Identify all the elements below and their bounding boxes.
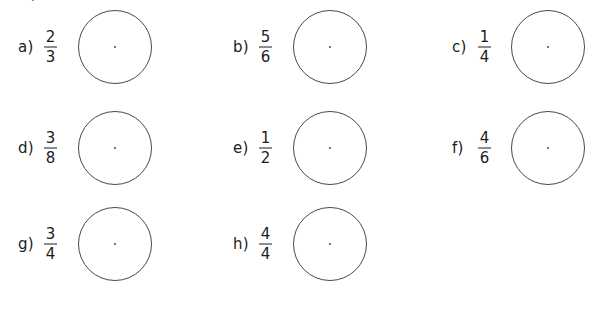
fraction-denominator: 4 <box>479 50 491 65</box>
problem-item: c)14 <box>452 2 587 92</box>
circle-center-dot <box>547 147 549 149</box>
fraction: 23 <box>44 30 57 65</box>
problem-item: d)38 <box>18 103 154 193</box>
problem-item: b)56 <box>233 2 369 92</box>
fraction-denominator: 4 <box>260 247 272 262</box>
circle-center-dot <box>329 46 331 48</box>
fraction-circle[interactable] <box>510 110 586 186</box>
fraction-denominator: 4 <box>45 247 57 262</box>
problem-label: h) <box>233 237 249 252</box>
problem-item: a)23 <box>18 2 154 92</box>
fraction: 46 <box>478 131 491 166</box>
circle-center-dot <box>329 243 331 245</box>
fraction-numerator: 1 <box>479 30 491 45</box>
problem-label: b) <box>233 40 249 55</box>
fraction-numerator: 3 <box>45 131 57 146</box>
fraction-denominator: 3 <box>45 50 57 65</box>
problem-label: f) <box>452 141 464 156</box>
fraction-circle[interactable] <box>77 9 153 85</box>
fraction-denominator: 8 <box>45 151 57 166</box>
fraction-circle[interactable] <box>77 110 153 186</box>
fraction-numerator: 3 <box>45 227 57 242</box>
problem-label: d) <box>18 141 34 156</box>
circle-center-dot <box>547 46 549 48</box>
circle-center-dot <box>114 46 116 48</box>
worksheet-canvas: y a)23b)56c)14d)38e)12f)46g)34h)44 <box>0 0 606 320</box>
fraction: 12 <box>259 131 272 166</box>
circle-center-dot <box>114 147 116 149</box>
problem-item: h)44 <box>233 199 369 289</box>
fraction-numerator: 5 <box>260 30 272 45</box>
fraction: 56 <box>259 30 272 65</box>
fraction-numerator: 2 <box>45 30 57 45</box>
problem-label: e) <box>233 141 248 156</box>
fraction-circle[interactable] <box>510 9 586 85</box>
fraction: 44 <box>259 227 272 262</box>
fraction-numerator: 4 <box>479 131 491 146</box>
problem-item: f)46 <box>452 103 587 193</box>
fraction-numerator: 4 <box>260 227 272 242</box>
problem-label: g) <box>18 237 34 252</box>
fraction: 38 <box>44 131 57 166</box>
fraction-denominator: 6 <box>260 50 272 65</box>
problem-label: a) <box>18 40 33 55</box>
fraction-numerator: 1 <box>260 131 272 146</box>
fraction-circle[interactable] <box>292 206 368 282</box>
problem-item: g)34 <box>18 199 154 289</box>
fraction-circle[interactable] <box>292 110 368 186</box>
circle-center-dot <box>114 243 116 245</box>
problem-label: c) <box>452 40 467 55</box>
circle-center-dot <box>329 147 331 149</box>
clipped-top-text: y <box>30 0 37 1</box>
fraction-denominator: 6 <box>479 151 491 166</box>
fraction: 14 <box>478 30 491 65</box>
fraction-denominator: 2 <box>260 151 272 166</box>
fraction: 34 <box>44 227 57 262</box>
fraction-circle[interactable] <box>292 9 368 85</box>
fraction-circle[interactable] <box>77 206 153 282</box>
problem-item: e)12 <box>233 103 369 193</box>
